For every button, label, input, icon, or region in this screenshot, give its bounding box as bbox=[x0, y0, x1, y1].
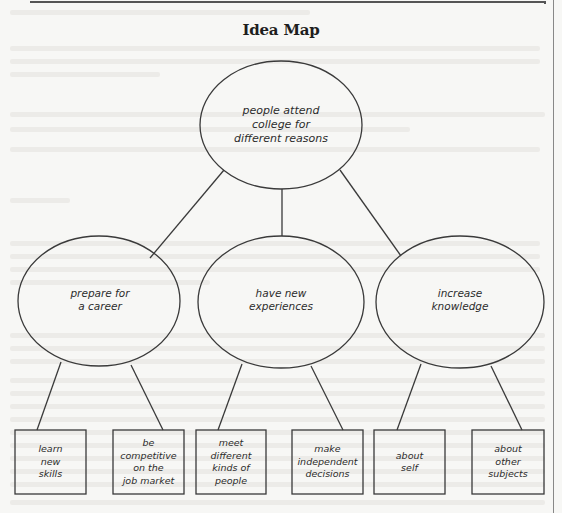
leaf-label-competitive: be competitive on the job market bbox=[113, 430, 184, 494]
connector-career-to-competitive bbox=[131, 365, 163, 430]
central-node-label: people attend college for different reas… bbox=[206, 95, 356, 155]
page: Idea Map people attend college for diffe… bbox=[0, 0, 562, 513]
branch-label-experiences: have new experiences bbox=[211, 280, 351, 320]
branch-label-career: prepare for a career bbox=[30, 280, 170, 320]
connector-experiences-to-meet bbox=[218, 364, 242, 430]
connector-career-to-skills bbox=[37, 362, 61, 430]
leaf-label-skills: learn new skills bbox=[15, 430, 86, 494]
connector-knowledge-to-subjects bbox=[491, 366, 522, 430]
leaf-label-self: about self bbox=[374, 430, 445, 494]
connector-center-to-career bbox=[150, 170, 224, 258]
connector-knowledge-to-self bbox=[397, 364, 421, 430]
leaf-label-decisions: make independent decisions bbox=[292, 430, 363, 494]
branch-label-knowledge: increase knowledge bbox=[390, 280, 530, 320]
leaf-label-subjects: about other subjects bbox=[472, 430, 544, 494]
connector-experiences-to-decisions bbox=[311, 366, 343, 430]
leaf-label-meet: meet different kinds of people bbox=[196, 430, 266, 494]
connector-center-to-knowledge bbox=[340, 170, 401, 256]
